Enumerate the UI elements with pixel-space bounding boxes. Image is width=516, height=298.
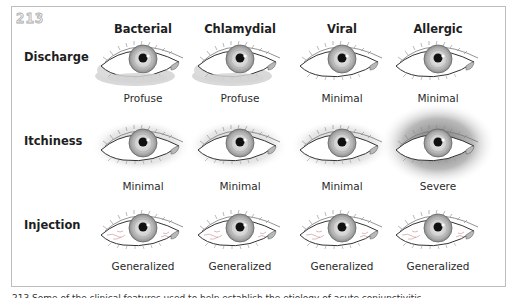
eye-chlamydial-itchiness — [190, 120, 290, 174]
figure-number: 213 — [16, 10, 44, 26]
column-header-chlamydial: Chlamydial — [190, 22, 290, 36]
row-header-discharge: Discharge — [24, 50, 89, 64]
value-chlamydial-itchiness: Minimal — [190, 180, 290, 192]
value-viral-itchiness: Minimal — [292, 180, 392, 192]
column-header-allergic: Allergic — [388, 22, 488, 36]
eye-allergic-itchiness — [388, 120, 488, 174]
value-bacterial-injection: Generalized — [93, 260, 193, 272]
value-viral-discharge: Minimal — [292, 92, 392, 104]
eye-chlamydial-injection — [190, 205, 290, 259]
value-allergic-itchiness: Severe — [388, 180, 488, 192]
value-bacterial-discharge: Profuse — [93, 92, 193, 104]
value-allergic-injection: Generalized — [388, 260, 488, 272]
column-header-viral: Viral — [292, 22, 392, 36]
eye-allergic-discharge — [388, 36, 488, 90]
eye-viral-injection — [292, 205, 392, 259]
eye-viral-discharge — [292, 36, 392, 90]
row-header-injection: Injection — [24, 218, 81, 232]
row-header-itchiness: Itchiness — [24, 134, 82, 148]
value-viral-injection: Generalized — [292, 260, 392, 272]
figure-caption: 213 Some of the clinical features used t… — [12, 292, 424, 298]
value-chlamydial-injection: Generalized — [190, 260, 290, 272]
eye-viral-itchiness — [292, 120, 392, 174]
eye-bacterial-discharge — [93, 36, 193, 90]
eye-bacterial-itchiness — [93, 120, 193, 174]
eye-allergic-injection — [388, 205, 488, 259]
value-chlamydial-discharge: Profuse — [190, 92, 290, 104]
value-bacterial-itchiness: Minimal — [93, 180, 193, 192]
eye-bacterial-injection — [93, 205, 193, 259]
eye-chlamydial-discharge — [190, 36, 290, 90]
column-header-bacterial: Bacterial — [93, 22, 193, 36]
